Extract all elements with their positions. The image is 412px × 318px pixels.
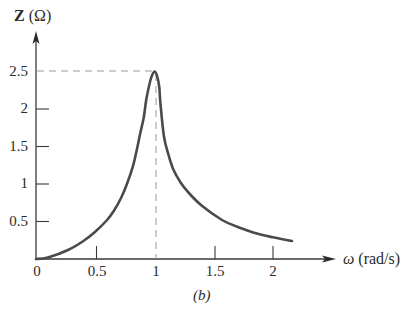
x-axis-label: ω (rad/s)	[343, 251, 400, 267]
x-tick-label: 1	[141, 264, 171, 279]
y-tick-label: 2.5	[0, 64, 28, 79]
y-axis-unit: (Ω)	[29, 7, 52, 24]
x-tick-label: 2	[258, 264, 288, 279]
y-tick-label: 1	[0, 176, 28, 191]
x-tick-label: 1.5	[200, 264, 230, 279]
y-axis-label: Z (Ω)	[14, 8, 51, 24]
y-axis-symbol: Z	[14, 7, 25, 24]
impedance-curve	[36, 72, 292, 260]
y-tick-label: 1.5	[0, 139, 28, 154]
y-tick-label: 0.5	[0, 214, 28, 229]
x-axis-symbol: ω	[343, 250, 354, 267]
figure-caption: (b)	[193, 288, 211, 303]
y-tick-label: 2	[0, 101, 28, 116]
y-ticks	[36, 109, 49, 222]
x-ticks	[97, 246, 274, 259]
x-tick-label: 0.5	[82, 264, 112, 279]
x-axis-unit: (rad/s)	[358, 250, 400, 267]
x-tick-label: 0	[22, 264, 52, 279]
